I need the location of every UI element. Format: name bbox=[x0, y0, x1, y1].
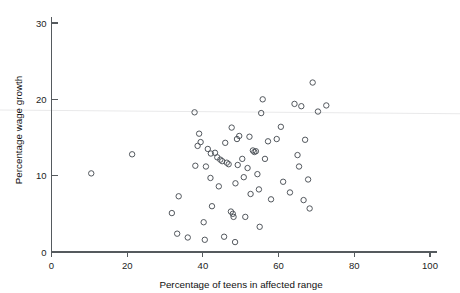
data-point bbox=[221, 234, 226, 239]
data-point bbox=[241, 174, 246, 179]
data-point bbox=[280, 179, 285, 184]
axes-group bbox=[52, 17, 438, 252]
data-point bbox=[232, 239, 237, 244]
data-point bbox=[216, 184, 221, 189]
data-point bbox=[193, 163, 198, 168]
data-point bbox=[296, 164, 301, 169]
trend-line bbox=[0, 110, 460, 114]
data-point-group bbox=[89, 80, 329, 245]
y-axis-title: Percentage wage growth bbox=[13, 76, 24, 184]
data-point bbox=[233, 181, 238, 186]
data-point bbox=[295, 152, 300, 157]
data-point bbox=[235, 162, 240, 167]
x-tick-label: 80 bbox=[349, 260, 360, 271]
y-axis-ticks: 0102030 bbox=[36, 18, 58, 258]
data-point bbox=[299, 104, 304, 109]
data-point bbox=[240, 156, 245, 161]
y-tick-label: 20 bbox=[36, 94, 47, 105]
data-point bbox=[260, 97, 265, 102]
data-point bbox=[201, 220, 206, 225]
data-point bbox=[287, 190, 292, 195]
y-tick-label: 10 bbox=[36, 170, 47, 181]
data-point bbox=[129, 152, 134, 157]
data-point bbox=[198, 139, 203, 144]
data-point bbox=[185, 235, 190, 240]
data-point bbox=[192, 110, 197, 115]
data-point bbox=[223, 140, 228, 145]
data-point bbox=[274, 136, 279, 141]
data-point bbox=[169, 210, 174, 215]
data-point bbox=[174, 231, 179, 236]
x-tick-label: 0 bbox=[49, 260, 54, 271]
data-point bbox=[268, 197, 273, 202]
data-point bbox=[292, 101, 297, 106]
data-point bbox=[196, 131, 201, 136]
data-point bbox=[315, 109, 320, 114]
x-tick-label: 100 bbox=[422, 260, 438, 271]
data-point bbox=[209, 204, 214, 209]
data-point bbox=[243, 214, 248, 219]
data-point bbox=[302, 137, 307, 142]
data-point bbox=[208, 175, 213, 180]
data-point bbox=[229, 125, 234, 130]
data-point bbox=[324, 103, 329, 108]
data-point bbox=[248, 191, 253, 196]
data-point bbox=[262, 156, 267, 161]
y-tick-label: 30 bbox=[36, 18, 47, 29]
y-tick-label: 0 bbox=[41, 247, 46, 258]
x-tick-label: 20 bbox=[122, 260, 133, 271]
x-axis-title: Percentage of teens in affected range bbox=[159, 279, 323, 290]
data-point bbox=[245, 165, 250, 170]
data-point bbox=[203, 164, 208, 169]
data-point bbox=[310, 80, 315, 85]
data-point bbox=[89, 171, 94, 176]
data-point bbox=[176, 194, 181, 199]
data-point bbox=[258, 110, 263, 115]
data-point bbox=[301, 197, 306, 202]
x-tick-label: 40 bbox=[198, 260, 209, 271]
scatter-plot: 020406080100 0102030 Percentage of teens… bbox=[0, 0, 460, 293]
data-point bbox=[265, 139, 270, 144]
data-point bbox=[307, 206, 312, 211]
data-point bbox=[247, 134, 252, 139]
data-point bbox=[202, 237, 207, 242]
data-point bbox=[257, 224, 262, 229]
data-point bbox=[305, 177, 310, 182]
data-point bbox=[255, 171, 260, 176]
x-axis-ticks: 020406080100 bbox=[49, 252, 438, 271]
data-point bbox=[278, 124, 283, 129]
chart-figure: 020406080100 0102030 Percentage of teens… bbox=[0, 0, 460, 293]
x-tick-label: 60 bbox=[273, 260, 284, 271]
data-point bbox=[256, 187, 261, 192]
trend-line-group bbox=[0, 110, 460, 114]
